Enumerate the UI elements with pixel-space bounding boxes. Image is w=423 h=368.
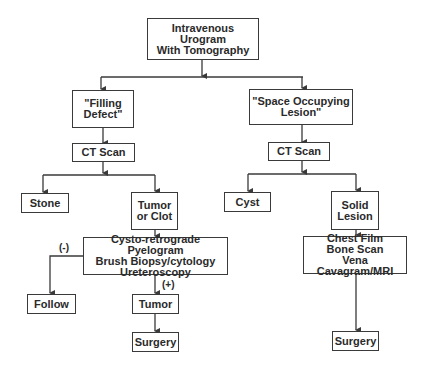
node-ct-scan-left: CT Scan <box>72 143 135 162</box>
edge-label-negative: (-) <box>59 242 69 253</box>
node-cysto-retrograde: Cysto-retrograde Pyelogram Brush Biopsy/… <box>83 237 228 275</box>
node-cyst: Cyst <box>224 192 271 212</box>
node-follow: Follow <box>27 294 76 314</box>
node-solid-lesion: Solid Lesion <box>331 191 379 230</box>
node-chest-film: Chest Film Bone Scan Vena Cavagram/MRI <box>303 236 407 274</box>
node-tumor-or-clot: Tumor or Clot <box>131 192 178 230</box>
edge-label-positive: (+) <box>162 279 175 290</box>
node-tumor: Tumor <box>132 294 179 314</box>
flowchart-diagram: Intravenous Urogram With Tomography "Fil… <box>0 0 423 368</box>
node-stone: Stone <box>21 193 69 213</box>
node-ct-scan-right: CT Scan <box>268 142 330 161</box>
node-intravenous-urogram: Intravenous Urogram With Tomography <box>147 18 259 60</box>
node-surgery-right: Surgery <box>332 331 379 351</box>
node-filling-defect: "Filling Defect" <box>72 90 134 128</box>
node-surgery-left: Surgery <box>132 332 179 352</box>
node-space-occupying-lesion: "Space Occupying Lesion" <box>249 89 353 125</box>
